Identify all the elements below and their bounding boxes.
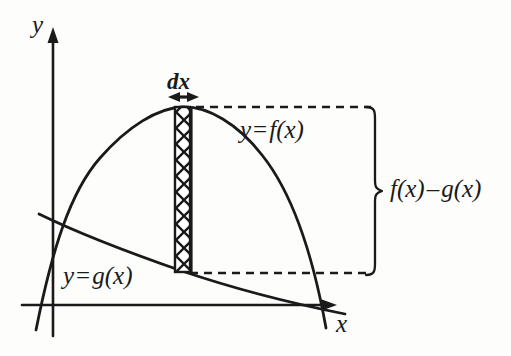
dx-label: dx	[167, 70, 190, 93]
curve-g-label: y=g(x)	[63, 263, 132, 288]
curve-f-label: y=f(x)	[240, 117, 304, 142]
difference-label-fn2: g	[441, 175, 454, 202]
x-axis-label: x	[336, 311, 347, 336]
curve-g-label-eq: =	[74, 262, 92, 289]
curve-f-label-arg: (x)	[276, 116, 304, 143]
curve-g-label-arg: (x)	[105, 262, 133, 289]
y-axis-label: y	[32, 12, 43, 37]
curve-f-label-eq: =	[251, 116, 269, 143]
difference-label-arg1: (x)	[397, 175, 425, 202]
difference-brace	[366, 107, 382, 275]
difference-label: f(x)–g(x)	[390, 176, 481, 201]
curve-f-label-lhs: y	[240, 116, 251, 143]
curve-g-label-lhs: y	[63, 262, 74, 289]
representative-rectangle	[175, 107, 190, 272]
curve-g-label-fn: g	[92, 262, 105, 289]
area-between-curves-figure: y x dx y=f(x) y=g(x) f(x)–g(x)	[0, 0, 511, 356]
difference-label-arg2: (x)	[454, 175, 482, 202]
y-axis	[48, 27, 59, 336]
difference-label-minus: –	[425, 175, 442, 202]
difference-label-fn1: f	[390, 175, 397, 202]
